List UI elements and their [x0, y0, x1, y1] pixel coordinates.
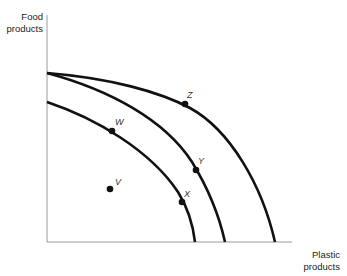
x-axis-label-line1: Plastic	[304, 249, 340, 261]
label-v: V	[115, 177, 122, 187]
label-w: W	[115, 117, 125, 127]
x-axis-label: Plastic products	[304, 249, 340, 273]
point-x	[179, 199, 186, 206]
point-y	[193, 167, 200, 174]
label-y: Y	[198, 156, 205, 166]
point-w	[109, 128, 116, 135]
outer-ppf-curve	[47, 73, 275, 242]
label-z: Z	[186, 90, 193, 100]
label-x: X	[183, 189, 191, 199]
x-axis-label-line2: products	[304, 261, 340, 273]
point-v	[107, 186, 114, 193]
point-z	[182, 101, 189, 108]
ppf-diagram: V W X Y Z	[0, 0, 347, 276]
